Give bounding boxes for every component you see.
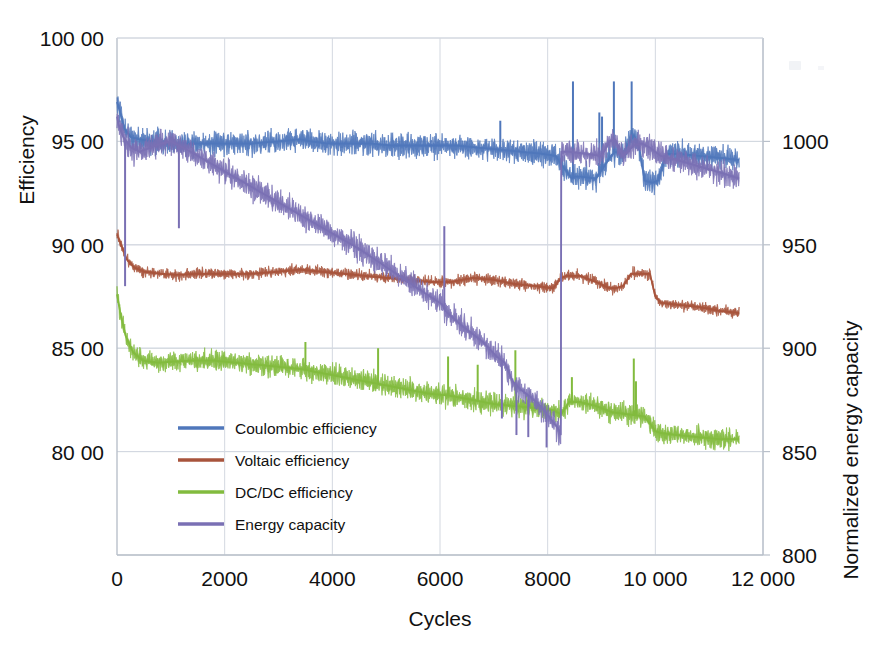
chart-legend: Coulombic efficiencyVoltaic efficiencyDC… bbox=[178, 420, 377, 533]
y-tick-label: 100 00 bbox=[40, 27, 104, 50]
x-tick-label: 6000 bbox=[417, 567, 464, 590]
series-layer bbox=[117, 81, 739, 451]
scan-artifact-secondary bbox=[818, 66, 824, 70]
series-band bbox=[117, 286, 739, 451]
x-tick-label: 2000 bbox=[201, 567, 248, 590]
y2-tick-label: 800 bbox=[782, 544, 817, 567]
y2-tick-label: 850 bbox=[782, 441, 817, 464]
chart-figure: 0200040006000800010 00012 000 100 0095 0… bbox=[0, 0, 878, 653]
chart-canvas: 0200040006000800010 00012 000 100 0095 0… bbox=[0, 0, 878, 653]
series-1 bbox=[117, 81, 739, 195]
y-tick-label: 80 00 bbox=[51, 441, 104, 464]
scan-artifact bbox=[789, 61, 801, 70]
x-tick-label: 8000 bbox=[524, 567, 571, 590]
legend-label-3: DC/DC efficiency bbox=[235, 484, 353, 501]
series-line bbox=[117, 294, 739, 439]
x-axis-ticks: 0200040006000800010 00012 000 bbox=[111, 567, 795, 590]
y2-axis-label: Normalized energy capacity bbox=[839, 320, 862, 580]
y-tick-label: 85 00 bbox=[51, 337, 104, 360]
y2-axis-ticks: 1000950900850800 bbox=[763, 130, 829, 567]
legend-label-2: Voltaic efficiency bbox=[235, 452, 350, 469]
y2-tick-label: 900 bbox=[782, 337, 817, 360]
y-tick-label: 95 00 bbox=[51, 130, 104, 153]
y2-tick-label: 1000 bbox=[782, 130, 829, 153]
x-tick-label: 4000 bbox=[309, 567, 356, 590]
x-tick-label: 12 000 bbox=[731, 567, 795, 590]
x-axis-label: Cycles bbox=[408, 607, 471, 630]
x-tick-label: 10 000 bbox=[623, 567, 687, 590]
y-axis-label: Efficiency bbox=[15, 115, 38, 205]
y2-tick-label: 950 bbox=[782, 234, 817, 257]
series-3 bbox=[117, 286, 739, 451]
y-axis-ticks: 100 0095 0090 0085 0080 00 bbox=[40, 27, 104, 464]
legend-label-1: Coulombic efficiency bbox=[235, 420, 377, 437]
x-tick-label: 0 bbox=[111, 567, 123, 590]
legend-label-4: Energy capacity bbox=[235, 516, 346, 533]
y-tick-label: 90 00 bbox=[51, 234, 104, 257]
